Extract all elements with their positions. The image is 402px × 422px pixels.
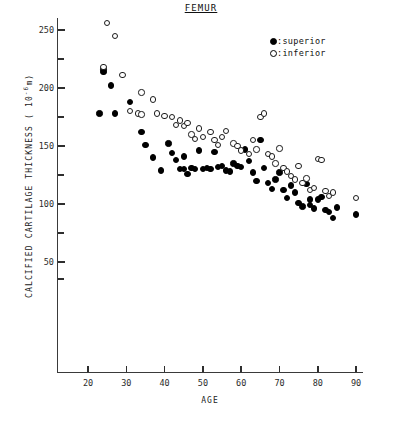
page-title: FEMUR	[0, 3, 402, 13]
data-point-superior	[311, 205, 317, 211]
x-tick-label-70: 70	[269, 378, 291, 388]
data-point-superior	[173, 157, 179, 163]
x-tick-label-20: 20	[77, 378, 99, 388]
data-point-superior	[234, 163, 240, 169]
data-point-superior	[227, 168, 233, 174]
data-point-superior	[280, 187, 286, 193]
data-point-superior	[238, 164, 244, 170]
data-point-inferior	[150, 96, 156, 102]
y-axis-title-exponent: -6	[22, 86, 29, 96]
data-point-inferior	[292, 176, 298, 182]
data-point-inferior	[284, 168, 290, 174]
x-tick-label-30: 30	[115, 378, 137, 388]
data-point-superior	[253, 178, 259, 184]
data-point-superior	[265, 180, 271, 186]
data-point-superior	[330, 215, 336, 221]
data-points-layer	[0, 0, 402, 422]
x-tick-90	[355, 366, 357, 372]
data-point-superior	[192, 166, 198, 172]
data-point-inferior	[100, 64, 106, 70]
x-tick-30	[126, 366, 128, 372]
data-point-inferior	[257, 114, 263, 120]
data-point-inferior	[207, 129, 213, 135]
data-point-superior	[292, 189, 298, 195]
data-point-inferior	[311, 185, 317, 191]
y-axis-title-unit: m)	[25, 74, 34, 86]
y-tick-50	[58, 261, 65, 263]
data-point-superior	[138, 129, 144, 135]
y-tick-minor-125	[58, 174, 64, 176]
scatter-plot-figure: FEMUR :superior :inferior 50100150200250…	[0, 0, 402, 422]
data-point-inferior	[307, 187, 313, 193]
data-point-superior	[284, 195, 290, 201]
data-point-inferior	[119, 72, 125, 78]
data-point-inferior	[250, 137, 256, 143]
data-point-inferior	[276, 145, 282, 151]
y-tick-250	[58, 29, 65, 31]
data-point-superior	[207, 166, 213, 172]
legend-label-superior: :superior	[277, 36, 326, 46]
data-point-superior	[272, 176, 278, 182]
data-point-superior	[211, 149, 217, 155]
data-point-inferior	[196, 125, 202, 131]
data-point-inferior	[238, 147, 244, 153]
data-point-superior	[223, 167, 229, 173]
x-axis-title: AGE	[57, 396, 363, 405]
x-axis-line	[57, 372, 363, 373]
data-point-superior	[334, 204, 340, 210]
filled-circle-icon	[270, 38, 277, 45]
legend-item-inferior: :inferior	[270, 48, 326, 60]
data-point-inferior	[138, 89, 144, 95]
data-point-superior	[142, 142, 148, 148]
data-point-superior	[100, 66, 106, 72]
data-point-superior	[196, 147, 202, 153]
x-tick-80	[317, 366, 319, 372]
data-point-inferior	[353, 195, 359, 201]
data-point-inferior	[154, 110, 160, 116]
data-point-inferior	[211, 137, 217, 143]
data-point-inferior	[265, 151, 271, 157]
data-point-superior	[246, 158, 252, 164]
x-tick-label-40: 40	[154, 378, 176, 388]
data-point-superior	[250, 169, 256, 175]
data-point-superior	[219, 163, 225, 169]
data-point-inferior	[253, 146, 259, 152]
data-point-superior	[303, 181, 309, 187]
data-point-inferior	[261, 110, 267, 116]
data-point-inferior	[192, 136, 198, 142]
data-point-superior	[108, 82, 114, 88]
x-tick-40	[164, 366, 166, 372]
data-point-superior	[181, 166, 187, 172]
legend: :superior :inferior	[270, 36, 326, 59]
x-tick-20	[87, 366, 89, 372]
data-point-superior	[112, 110, 118, 116]
data-point-superior	[257, 137, 263, 143]
data-point-inferior	[322, 188, 328, 194]
data-point-inferior	[184, 120, 190, 126]
data-point-inferior	[288, 173, 294, 179]
data-point-superior	[200, 166, 206, 172]
data-point-superior	[326, 209, 332, 215]
data-point-inferior	[169, 114, 175, 120]
data-point-superior	[353, 211, 359, 217]
x-tick-label-50: 50	[192, 378, 214, 388]
data-point-superior	[276, 169, 282, 175]
x-tick-70	[279, 366, 281, 372]
y-tick-200	[58, 87, 65, 89]
data-point-inferior	[272, 160, 278, 166]
data-point-superior	[158, 167, 164, 173]
data-point-superior	[242, 146, 248, 152]
y-tick-150	[58, 145, 65, 147]
data-point-superior	[150, 154, 156, 160]
data-point-superior	[261, 165, 267, 171]
data-point-inferior	[299, 180, 305, 186]
x-tick-label-80: 80	[307, 378, 329, 388]
y-axis-line	[57, 18, 58, 373]
x-tick-60	[240, 366, 242, 372]
x-tick-label-90: 90	[345, 378, 367, 388]
data-point-superior	[215, 164, 221, 170]
legend-label-inferior: :inferior	[277, 48, 326, 58]
y-tick-minor-225	[58, 58, 64, 60]
data-point-inferior	[215, 142, 221, 148]
data-point-inferior	[315, 156, 321, 162]
